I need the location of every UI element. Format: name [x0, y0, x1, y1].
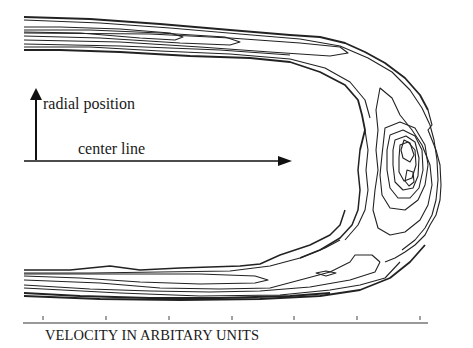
contour-plot — [0, 0, 473, 348]
contour-lines — [24, 17, 441, 300]
center-line-arrow — [24, 156, 292, 166]
center-line-label: center line — [78, 140, 145, 158]
radial-position-label: radial position — [43, 95, 135, 113]
radial-position-arrow — [30, 88, 42, 160]
x-axis — [23, 316, 428, 323]
x-axis-label: VELOCITY IN ARBITARY UNITS — [45, 327, 259, 344]
